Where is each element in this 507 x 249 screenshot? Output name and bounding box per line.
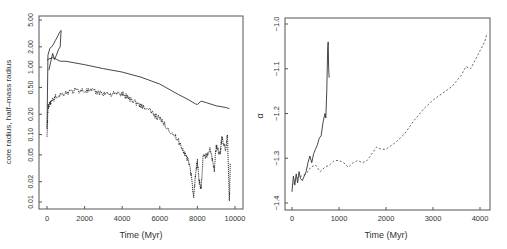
plot-frame <box>285 18 490 210</box>
radius-vs-time-chart: 0200040006000800010000 0.010.020.050.100… <box>0 0 253 249</box>
x-tick-label: 2000 <box>378 214 395 223</box>
data-series <box>47 30 230 200</box>
left-chart-panel: 0200040006000800010000 0.010.020.050.100… <box>0 0 253 249</box>
alpha-solid-line <box>292 42 329 192</box>
y-tick-label: 0.02 <box>27 175 34 189</box>
y-axis-label: α <box>255 113 265 118</box>
x-tick-label: 6000 <box>151 214 168 223</box>
y-tick-label: 0.10 <box>27 128 34 142</box>
y-tick-label: 0.20 <box>27 107 34 121</box>
x-axis-ticks: 01000200030004000 <box>290 207 488 223</box>
x-tick-label: 10000 <box>225 214 246 223</box>
x-tick-label: 1000 <box>331 214 348 223</box>
y-tick-label: 0.50 <box>27 81 34 95</box>
half-mass-radius-line <box>47 58 229 109</box>
x-tick-label: 4000 <box>114 214 131 223</box>
data-series <box>292 33 487 192</box>
early-transient-line <box>47 30 61 129</box>
x-tick-label: 0 <box>290 214 294 223</box>
alpha-vs-time-chart: 01000200030004000 −1.4−1.3−1.2−1.1−1.0 T… <box>253 0 507 249</box>
y-tick-label: 5.00 <box>27 13 34 27</box>
x-tick-label: 4000 <box>472 214 489 223</box>
y-tick-label: −1.0 <box>272 17 281 32</box>
x-tick-label: 8000 <box>189 214 206 223</box>
x-axis-label: Time (Myr) <box>119 230 162 240</box>
y-axis-ticks: 0.010.020.050.100.200.501.002.005.00 <box>27 13 42 209</box>
plot-frame <box>39 16 243 209</box>
y-tick-label: −1.4 <box>272 196 281 211</box>
right-chart-panel: 01000200030004000 −1.4−1.3−1.2−1.1−1.0 T… <box>253 0 507 249</box>
x-axis-label: Time (Myr) <box>364 230 407 240</box>
x-tick-label: 0 <box>45 214 49 223</box>
y-axis-label: core radius, half–mass radius <box>4 60 13 165</box>
x-tick-label: 3000 <box>425 214 442 223</box>
y-tick-label: −1.2 <box>272 106 281 121</box>
y-tick-label: 2.00 <box>27 40 34 54</box>
y-tick-label: 0.01 <box>27 195 34 209</box>
core-radius-line <box>47 88 230 201</box>
y-tick-label: −1.3 <box>272 151 281 166</box>
y-tick-label: 0.05 <box>27 148 34 162</box>
alpha-dashed-line <box>292 33 487 185</box>
x-tick-label: 2000 <box>76 214 93 223</box>
y-tick-label: 1.00 <box>27 60 34 74</box>
y-axis-ticks: −1.4−1.3−1.2−1.1−1.0 <box>272 17 288 211</box>
y-tick-label: −1.1 <box>272 61 281 76</box>
